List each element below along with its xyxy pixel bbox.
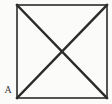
figure-container: A — [0, 0, 112, 104]
figure-label-a: A — [2, 83, 14, 96]
square-diagonals-diagram — [0, 0, 112, 104]
